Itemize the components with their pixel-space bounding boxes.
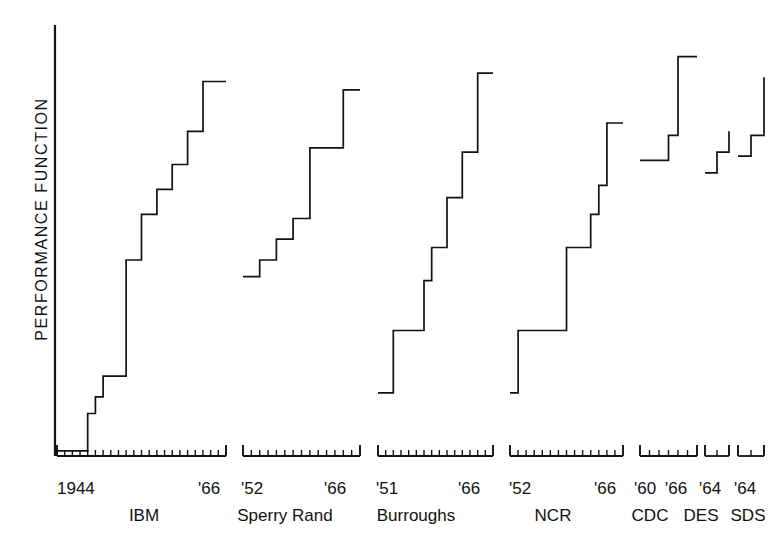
axis-label-ibm-end: '66: [198, 479, 220, 499]
step-curve-des: [705, 131, 729, 173]
company-label-burroughs: Burroughs: [356, 506, 476, 526]
step-curve-cdc: [640, 57, 697, 161]
company-label-cdc: CDC: [624, 506, 676, 526]
x-axis-ncr: [510, 445, 623, 456]
x-axis-burroughs: [378, 445, 493, 456]
step-chart-plot: [0, 0, 776, 549]
axis-label-sperry-end: '66: [324, 479, 346, 499]
axis-label-sperry-start: '52: [241, 479, 263, 499]
chart-figure: PERFORMANCE FUNCTION 1944 '66 '52 '66 '5…: [0, 0, 776, 549]
step-curve-sperry-rand: [243, 90, 360, 277]
axis-label-des-start: '64: [699, 479, 721, 499]
step-curve-burroughs: [378, 73, 493, 393]
step-curves: [57, 57, 764, 455]
axis-label-burroughs-start: '51: [376, 479, 398, 499]
step-curve-sds: [738, 77, 764, 156]
company-label-sds: SDS: [724, 506, 772, 526]
axis-label-ncr-end: '66: [594, 479, 616, 499]
x-axis-des: [705, 445, 729, 456]
axis-label-ibm-start: 1944: [57, 479, 95, 499]
company-label-des: DES: [677, 506, 725, 526]
axis-label-ncr-start: '52: [509, 479, 531, 499]
axis-label-cdc-end: '66: [665, 479, 687, 499]
step-curve-ncr: [510, 123, 623, 393]
x-axis-cdc: [640, 445, 697, 456]
company-label-ncr: NCR: [513, 506, 593, 526]
x-axis-sds: [738, 445, 764, 456]
caption-fragment: [70, 537, 770, 549]
x-axis-segments: [57, 445, 764, 456]
axis-label-sds-start: '64: [734, 479, 756, 499]
x-axis-sperry-rand: [243, 445, 360, 456]
company-label-ibm: IBM: [104, 506, 184, 526]
company-label-sperry-rand: Sperry Rand: [230, 506, 340, 526]
axis-label-burroughs-end: '66: [458, 479, 480, 499]
axis-label-cdc-start: '60: [634, 479, 656, 499]
step-curve-ibm: [57, 82, 226, 451]
